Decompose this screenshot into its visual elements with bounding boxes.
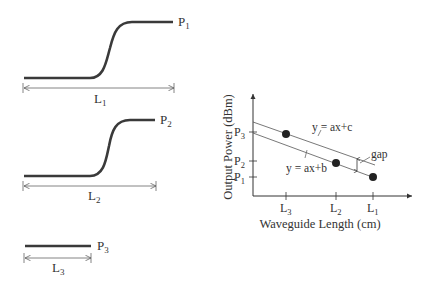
upper-line-label: y = ax+c — [312, 121, 352, 134]
gap-label: gap — [371, 148, 388, 161]
waveguide-1-path — [24, 22, 173, 78]
waveguide-1: P1 L1 — [23, 14, 190, 108]
output-label-p3: P3 — [97, 238, 109, 255]
diagram-canvas: P1 L1 P2 L2 P3 L3 P3 P2 P1 — [0, 0, 428, 284]
y-tick-label-p2: P2 — [234, 154, 245, 170]
x-tick-label-l1: L1 — [367, 201, 379, 217]
length-label-l2: L2 — [88, 188, 100, 205]
data-point-l1-p1 — [369, 173, 377, 181]
y-tick-label-p3: P3 — [234, 125, 245, 141]
output-label-p2: P2 — [160, 112, 172, 129]
y-axis-label: Output Power (dBm) — [221, 94, 235, 200]
x-tick-label-l2: L2 — [330, 201, 342, 217]
waveguide-2: P2 L2 — [23, 112, 172, 205]
data-point-l3-p3 — [282, 130, 290, 138]
x-tick-label-l3: L3 — [280, 201, 292, 217]
output-label-p1: P1 — [178, 14, 190, 31]
power-vs-length-chart: P3 P2 P1 L3 L2 L1 Waveguide Length (cm) … — [221, 94, 412, 231]
lower-line-leader — [305, 150, 307, 158]
length-label-l1: L1 — [94, 91, 106, 108]
waveguide-3: P3 L3 — [24, 238, 109, 277]
x-axis-label: Waveguide Length (cm) — [259, 217, 380, 231]
waveguide-2-path — [24, 120, 155, 176]
lower-line-label: y = ax+b — [286, 162, 327, 175]
y-tick-label-p1: P1 — [234, 170, 245, 186]
length-label-l3: L3 — [52, 260, 65, 277]
data-point-l2-p2 — [332, 159, 340, 167]
